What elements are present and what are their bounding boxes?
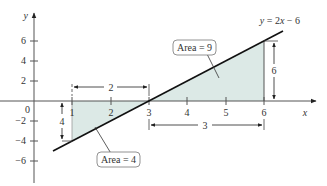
dim-width-left-label: 2 (109, 82, 114, 93)
y-tick-label: −6 (15, 155, 26, 166)
y-tick-label: 4 (21, 55, 26, 66)
y-tick-label: 6 (21, 35, 26, 46)
x-tick-label: 2 (109, 107, 114, 118)
dim-height-right-label: 6 (272, 65, 277, 76)
x-tick-label: 4 (185, 107, 190, 118)
area-right-label: Area = 9 (177, 42, 212, 53)
y-tick-label: −2 (15, 115, 26, 126)
dim-width-right-label: 3 (203, 120, 208, 131)
x-tick-label: 3 (147, 107, 152, 118)
area-left-label: Area = 4 (101, 154, 136, 165)
y-tick-label: 2 (21, 75, 26, 86)
y-axis-label: y (23, 10, 29, 21)
y-tick-label: −4 (15, 135, 26, 146)
dim-height-left-label: 4 (60, 116, 65, 127)
x-tick-label: 6 (262, 107, 267, 118)
graph-figure: 1 2 3 4 5 6 x 6 4 2 0 −2 −4 −6 y y = 2x … (0, 0, 327, 186)
x-tick-label: 5 (224, 107, 229, 118)
equation-label: y = 2x − 6 (259, 15, 300, 26)
y-tick-label: 0 (25, 104, 30, 115)
x-tick-label: 1 (70, 107, 75, 118)
x-axis-label: x (302, 107, 308, 118)
